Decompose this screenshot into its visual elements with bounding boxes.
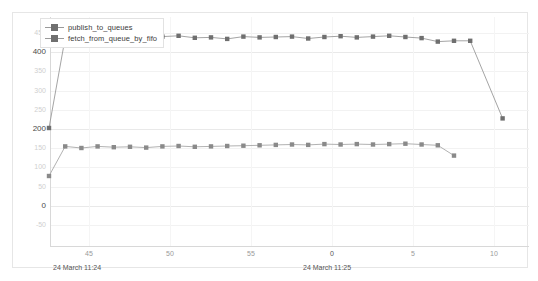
chart-screenshot: 450400350300250200150100500-50 455055051… [0, 0, 538, 281]
y-axis-tick-label: 350 [13, 67, 46, 75]
vertical-gridline [413, 17, 414, 246]
x-axis-tick-label: 50 [166, 249, 174, 258]
legend-marker-icon [45, 34, 64, 43]
chart-legend: publish_to_queues fetch_from_queue_by_fi… [40, 18, 164, 48]
x-axis-tick-label: 45 [85, 249, 93, 258]
x-axis-tick-label: 5 [411, 249, 415, 258]
legend-item-publish-to-queues[interactable]: publish_to_queues [45, 22, 157, 33]
y-axis-tick-label: 250 [13, 106, 46, 114]
y-axis-tick-label: 200 [13, 125, 46, 133]
gridline [50, 187, 529, 188]
gridline [50, 91, 529, 92]
legend-label: fetch_from_queue_by_fifo [68, 34, 157, 43]
vertical-gridline [494, 17, 495, 246]
gridline [50, 71, 529, 72]
x-axis-tick-label: 0 [330, 249, 334, 258]
y-axis-tick-label: 100 [13, 163, 46, 171]
x-axis-time-right: 24 March 11:25 [303, 263, 351, 272]
y-axis-tick-label: 400 [13, 48, 46, 56]
y-axis-tick-label: 300 [13, 87, 46, 95]
gridline [50, 110, 529, 111]
y-axis-tick-label: 150 [13, 144, 46, 152]
x-axis-line [50, 246, 529, 247]
y-axis-tick-label: 50 [13, 183, 46, 191]
vertical-gridline [332, 17, 333, 246]
y-axis-tick-label: -50 [13, 221, 46, 229]
legend-item-fetch-from-queue-by-fifo[interactable]: fetch_from_queue_by_fifo [45, 33, 157, 44]
gridline [50, 167, 529, 168]
legend-marker-icon [45, 23, 64, 32]
vertical-gridline [170, 17, 171, 246]
x-axis-tick-label: 55 [247, 249, 255, 258]
x-axis-tick-label: 10 [490, 249, 498, 258]
legend-label: publish_to_queues [68, 23, 133, 32]
x-axis-time-left: 24 March 11:24 [53, 263, 101, 272]
gridline [50, 129, 529, 130]
chart-frame: 450400350300250200150100500-50 455055051… [12, 12, 528, 268]
y-axis-line [50, 17, 51, 246]
gridline [50, 52, 529, 53]
gridline [50, 148, 529, 149]
gridline [50, 225, 529, 226]
y-axis-tick-label: 0 [13, 202, 46, 210]
vertical-gridline [251, 17, 252, 246]
gridline [50, 206, 529, 207]
vertical-gridline [89, 17, 90, 246]
